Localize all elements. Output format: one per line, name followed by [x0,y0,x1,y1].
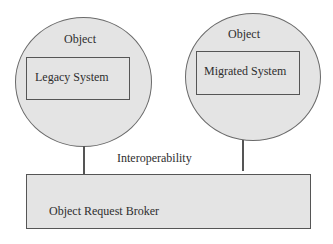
migrated-object-title: Object [228,27,260,42]
object-request-broker-box [26,174,311,229]
migrated-connector-line [242,140,244,171]
legacy-connector-line [83,146,85,175]
object-request-broker-label: Object Request Broker [49,204,159,219]
interoperability-label: Interoperability [117,151,192,166]
legacy-object-title: Object [64,32,96,47]
migrated-system-label: Migrated System [204,64,286,79]
legacy-system-label: Legacy System [35,70,109,85]
